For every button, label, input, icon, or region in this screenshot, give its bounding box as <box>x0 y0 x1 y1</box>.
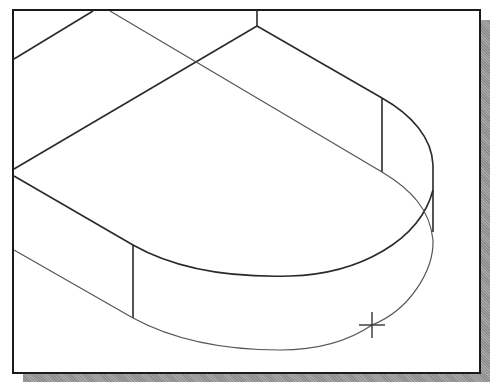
edge-lower-front-arc <box>14 250 372 350</box>
crosshair-cursor-icon <box>359 312 385 338</box>
edge-top-left <box>14 11 93 59</box>
edge-thin-diagonal <box>110 11 433 325</box>
edge-top-diagonal <box>14 26 257 169</box>
edge-upper-front-arc <box>14 176 433 276</box>
edge-top-right-with-arc <box>257 26 433 232</box>
